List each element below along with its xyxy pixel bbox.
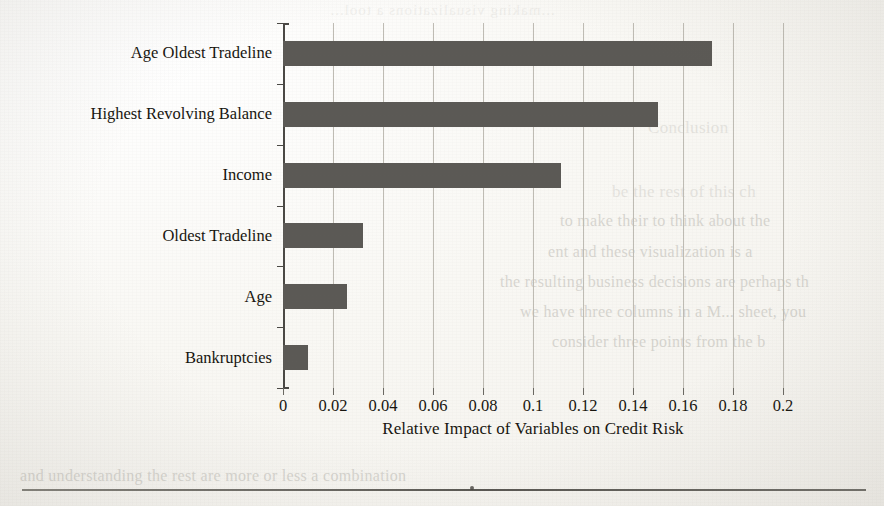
- category-label: Age Oldest Tradeline: [131, 43, 272, 63]
- gridline: [783, 23, 784, 388]
- bar: [283, 102, 658, 127]
- category-label: Highest Revolving Balance: [91, 104, 272, 124]
- x-axis-tick: [483, 388, 484, 395]
- y-axis-tick: [277, 206, 283, 207]
- y-axis-tick: [277, 23, 283, 24]
- gridline: [383, 23, 384, 388]
- bar: [283, 163, 561, 188]
- category-label: Bankruptcies: [185, 348, 272, 368]
- gridline: [533, 23, 534, 388]
- footer-rule-mark: [470, 486, 474, 490]
- gridline: [333, 23, 334, 388]
- y-axis-tick: [277, 145, 283, 146]
- category-label: Age: [245, 287, 273, 307]
- x-axis-tick: [533, 388, 534, 395]
- bar: [283, 284, 347, 309]
- y-axis-tick: [277, 327, 283, 328]
- bar-chart: Age Oldest TradelineHighest Revolving Ba…: [0, 0, 884, 506]
- x-axis-tick: [783, 388, 784, 395]
- x-axis-tick: [733, 388, 734, 395]
- y-axis-tick: [277, 84, 283, 85]
- x-tick-label: 0.2: [753, 396, 813, 416]
- footer-rule: [22, 489, 866, 491]
- y-axis-tick: [277, 388, 283, 389]
- x-axis-tick: [383, 388, 384, 395]
- x-axis-tick: [433, 388, 434, 395]
- bar: [283, 345, 308, 370]
- gridline: [633, 23, 634, 388]
- x-axis-tick: [333, 388, 334, 395]
- bar: [283, 223, 363, 248]
- gridline: [483, 23, 484, 388]
- x-axis-tick: [583, 388, 584, 395]
- category-label: Oldest Tradeline: [162, 226, 272, 246]
- gridline: [583, 23, 584, 388]
- x-axis-tick: [633, 388, 634, 395]
- bar: [283, 41, 712, 66]
- gridline: [433, 23, 434, 388]
- gridline: [733, 23, 734, 388]
- gridline: [683, 23, 684, 388]
- x-axis-tick: [683, 388, 684, 395]
- x-axis-title: Relative Impact of Variables on Credit R…: [283, 419, 783, 439]
- category-label: Income: [223, 165, 272, 185]
- y-axis-tick: [277, 266, 283, 267]
- x-axis-tick: [283, 388, 284, 395]
